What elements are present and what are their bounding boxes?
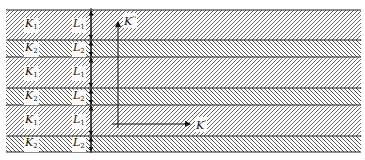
layer-K1 <box>6 10 361 40</box>
vertical-axis-label: K'' <box>123 13 137 28</box>
thickness-label: L1 <box>72 114 86 129</box>
material-label: K2 <box>24 42 39 57</box>
layered-medium-diagram <box>0 0 365 160</box>
thickness-label: L2 <box>72 42 86 57</box>
thickness-label: L1 <box>72 66 86 81</box>
layer-K1 <box>6 105 361 136</box>
layer-K2 <box>6 136 361 152</box>
material-label: K1 <box>24 114 39 129</box>
material-label: K2 <box>24 137 39 152</box>
layer-K1 <box>6 57 361 88</box>
layer-K2 <box>6 40 361 57</box>
thickness-label: L2 <box>72 137 86 152</box>
material-label: K1 <box>24 66 39 81</box>
thickness-label: L1 <box>72 18 86 33</box>
material-label: K1 <box>24 18 39 33</box>
horizontal-axis-label: K' <box>195 117 207 132</box>
thickness-label: L2 <box>72 90 86 105</box>
layer-K2 <box>6 88 361 105</box>
material-label: K2 <box>24 90 39 105</box>
